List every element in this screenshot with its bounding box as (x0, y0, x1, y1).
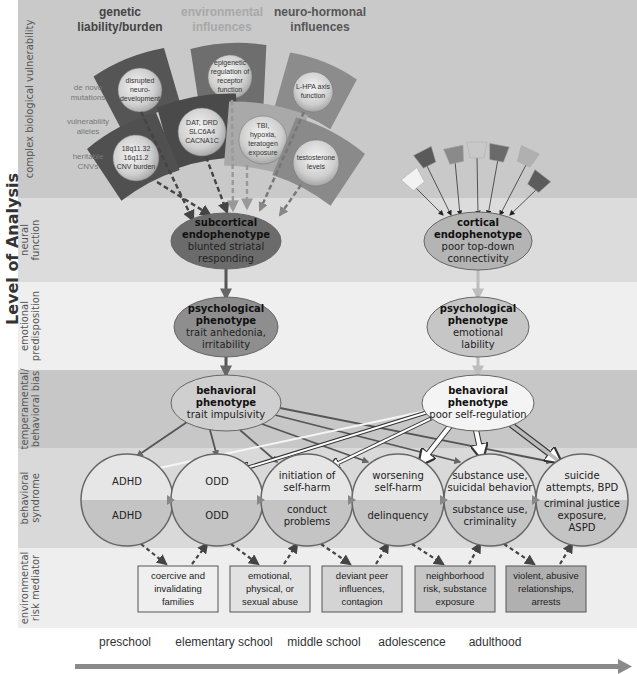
syndrome-top-label: ODD (205, 476, 229, 487)
left-psychological-phenotype-title: psychological (188, 303, 265, 314)
left-behavioral-phenotype-desc: trait impulsivity (187, 409, 266, 420)
factor-label: receptor (217, 77, 243, 85)
subcortical-endophenotype-title: endophenotype (182, 229, 270, 240)
timeline-label: elementary school (175, 635, 272, 649)
factor-label: testosterone (297, 154, 336, 161)
syndrome-bottom-label: substance use, (452, 504, 527, 515)
genetic-row-label: CNVs (78, 162, 99, 171)
risk-mediator-label: relationships, (518, 583, 574, 594)
cortical-factor (467, 142, 487, 158)
syndrome-top-label: suicidal behavior (448, 482, 534, 493)
timeline-arrow-shaft (75, 664, 620, 669)
left-behavioral-phenotype-title: phenotype (196, 397, 257, 408)
influence-header: liability/burden (77, 20, 162, 34)
genetic-row-label: de novo (74, 83, 103, 92)
risk-mediator-label: deviant peer (336, 570, 388, 581)
timeline-label: preschool (99, 635, 151, 649)
risk-mediator-label: coercive and (151, 570, 205, 581)
syndrome-bottom-label: ADHD (112, 510, 142, 521)
subcortical-endophenotype-desc: responding (198, 253, 254, 264)
cortical-endophenotype-title: endophenotype (434, 229, 522, 240)
band-label-syndrome: syndrome (30, 473, 41, 523)
risk-mediator-label: influences, (339, 583, 384, 594)
right-behavioral-phenotype-title: behavioral (448, 385, 508, 396)
factor-label: regulation of (211, 68, 250, 76)
syndrome-top-label: initiation of (279, 470, 336, 481)
risk-mediator-label: neighborhood (426, 570, 484, 581)
left-psychological-phenotype-title: phenotype (196, 315, 257, 326)
syndrome-top-label: self-harm (375, 482, 422, 493)
risk-mediator-label: sexual abuse (242, 596, 298, 607)
factor-label: 16q11.2 (124, 154, 149, 162)
factor-label: epigenetic (214, 59, 246, 67)
risk-mediator-label: risk, substance (423, 583, 486, 594)
band-label-environmental: environmental (19, 552, 30, 625)
band-label-environmental: risk mediator (30, 554, 41, 621)
band-emotional (18, 282, 637, 370)
risk-mediator-label: invalidating (154, 583, 202, 594)
left-psychological-phenotype-desc: trait anhedonia, (186, 327, 266, 338)
band-label-temperamental: temperamental/ (19, 368, 30, 450)
risk-mediator-label: violent, abusive (513, 570, 578, 581)
band-label-neural: function (30, 220, 41, 261)
influence-header: neuro-hormonal (274, 5, 366, 19)
genetic-row-label: heritable (73, 152, 104, 161)
syndrome-top-label: self-harm (284, 482, 331, 493)
factor-label: SLC6A4 (189, 128, 215, 135)
syndrome-bottom-label: criminality (464, 516, 517, 527)
syndrome-bottom-label: exposure, (557, 510, 606, 521)
factor-label: function (301, 92, 326, 99)
timeline-arrowhead (618, 659, 632, 674)
right-psychological-phenotype-title: phenotype (448, 315, 509, 326)
timeline-label: middle school (287, 635, 360, 649)
influence-header: influences (290, 20, 350, 34)
left-psychological-phenotype-desc: irritability (202, 339, 250, 350)
risk-mediator-label: families (162, 596, 194, 607)
factor-label: development (120, 95, 160, 103)
right-psychological-phenotype-desc: emotional (453, 327, 503, 338)
syndrome-top-label: worsening (372, 470, 424, 481)
factor-label: teratogen (248, 140, 278, 148)
influence-header: environmental (181, 5, 263, 19)
right-psychological-phenotype-desc: lability (461, 339, 495, 350)
factor-label: CACNA1C (185, 137, 218, 144)
syndrome-node (81, 454, 173, 546)
factor-label: disrupted (126, 77, 155, 85)
syndrome-bottom-label: ODD (205, 510, 229, 521)
factor-label: DAT, DRD (186, 119, 218, 126)
band-label-syndrome: behavioral (19, 472, 30, 525)
factor-label: 18q11.32 (122, 145, 151, 153)
genetic-row-label: alleles (77, 127, 100, 136)
side-title: Level of Analysis (3, 175, 23, 325)
syndrome-bottom-label: problems (284, 516, 331, 527)
band-label-temperamental: behavioral bias (30, 371, 41, 447)
syndrome-top-label: suicide (564, 470, 599, 481)
band-label-emotional: predisposition (30, 291, 41, 361)
risk-mediator-label: contagion (341, 596, 382, 607)
timeline-label: adulthood (469, 635, 522, 649)
genetic-row-label: mutations (71, 93, 106, 102)
band-neural (18, 198, 637, 282)
syndrome-bottom-label: ASPD (569, 522, 596, 533)
influence-header: genetic (99, 5, 141, 19)
right-psychological-phenotype-title: psychological (440, 303, 517, 314)
band-temperamental (18, 370, 637, 448)
syndrome-top-label: substance use, (452, 470, 527, 481)
right-behavioral-phenotype-title: phenotype (448, 397, 509, 408)
factor-label: exposure (249, 149, 278, 157)
risk-mediator-label: emotional, (248, 570, 292, 581)
influence-header: influences (192, 20, 252, 34)
factor-label: TBI, (257, 122, 270, 129)
cortical-endophenotype-title: cortical (457, 217, 499, 228)
factor-label: CNV burden (117, 163, 156, 170)
factor-label: neuro- (130, 86, 151, 93)
syndrome-bottom-label: delinquency (368, 510, 429, 521)
factor-label: levels (307, 163, 325, 170)
syndrome-top-label: attempts, BPD (546, 482, 619, 493)
risk-mediator-label: physical, or (246, 583, 294, 594)
syndrome-bottom-label: criminal justice (544, 498, 620, 509)
subcortical-endophenotype-desc: blunted striatal (188, 241, 264, 252)
right-behavioral-phenotype-desc: poor self-regulation (429, 409, 526, 420)
factor-label: function (218, 86, 243, 93)
factor-label: hypoxia, (250, 131, 276, 139)
